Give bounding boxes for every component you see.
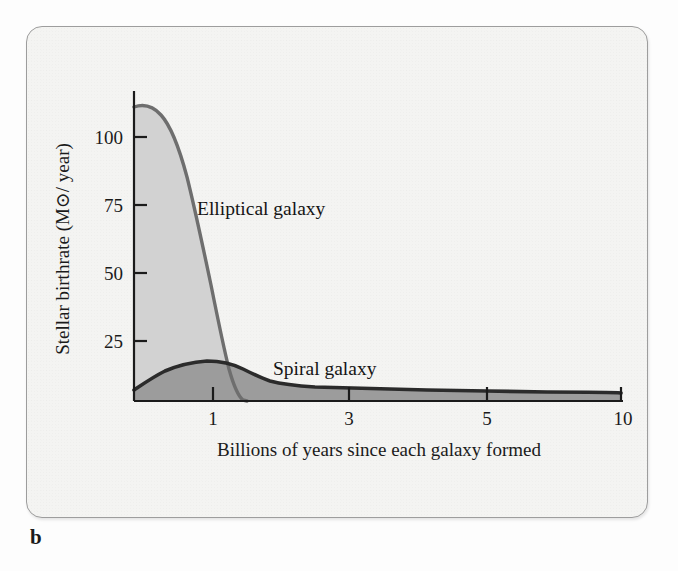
page-background: 100 75 50 25 1 3 5 10 Billions of years … — [0, 0, 678, 571]
y-tick-label-50: 50 — [104, 263, 123, 284]
x-tick-label-1: 1 — [208, 408, 218, 429]
y-tick-label-25: 25 — [104, 331, 123, 352]
area-elliptical-galaxy — [134, 106, 247, 401]
chart-plot-area: 100 75 50 25 1 3 5 10 Billions of years … — [27, 27, 649, 519]
x-tick-label-5: 5 — [482, 408, 492, 429]
y-tick-label-75: 75 — [104, 195, 123, 216]
area-spiral-galaxy — [134, 361, 621, 401]
y-tick-label-100: 100 — [95, 127, 124, 148]
x-tick-label-3: 3 — [344, 408, 354, 429]
series-label-elliptical-galaxy: Elliptical galaxy — [197, 198, 326, 219]
y-axis-title: Stellar birthrate (M⊙/ year) — [52, 143, 74, 355]
series-label-spiral-galaxy: Spiral galaxy — [273, 358, 377, 379]
x-tick-label-10: 10 — [614, 408, 633, 429]
figure-frame: 100 75 50 25 1 3 5 10 Billions of years … — [26, 26, 648, 518]
x-axis-title: Billions of years since each galaxy form… — [217, 439, 541, 460]
panel-letter: b — [30, 525, 42, 550]
